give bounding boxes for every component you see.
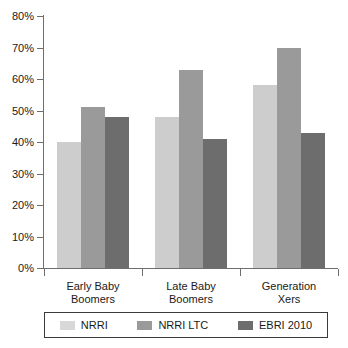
bar[interactable] (105, 117, 129, 268)
x-axis-end-tick (338, 269, 339, 276)
x-separator (240, 269, 241, 276)
legend-swatch-nrri (60, 321, 75, 330)
bar[interactable] (155, 117, 179, 268)
legend-item-2[interactable]: EBRI 2010 (238, 320, 312, 331)
y-axis-label-80: 80% (0, 11, 34, 22)
y-tick-10 (37, 237, 43, 238)
bar-group (57, 16, 129, 268)
y-axis-line (43, 15, 44, 269)
bar[interactable] (301, 133, 325, 268)
bar[interactable] (57, 142, 81, 268)
y-tick-20 (37, 205, 43, 206)
y-axis-label-10: 10% (0, 232, 34, 243)
legend-swatch-ebri-2010 (238, 321, 253, 330)
bar[interactable] (81, 107, 105, 268)
legend-item-0[interactable]: NRRI (60, 320, 108, 331)
y-axis-label-50: 50% (0, 106, 34, 117)
x-category-label-line: Xers (240, 293, 338, 306)
legend-swatch-nrri-ltc (137, 321, 152, 330)
y-tick-80 (37, 16, 43, 17)
x-category-label: Early BabyBoomers (44, 280, 142, 306)
y-tick-60 (37, 79, 43, 80)
x-category-label-line: Generation (240, 280, 338, 293)
legend-label-nrri-ltc: NRRI LTC (158, 320, 208, 331)
y-axis-label-70: 70% (0, 43, 34, 54)
y-tick-0 (37, 268, 43, 269)
x-category-label-line: Early Baby (44, 280, 142, 293)
x-axis-line (43, 268, 338, 269)
y-tick-40 (37, 142, 43, 143)
y-axis-label-20: 20% (0, 200, 34, 211)
y-tick-70 (37, 48, 43, 49)
x-category-label: GenerationXers (240, 280, 338, 306)
chart-legend: NRRI NRRI LTC EBRI 2010 (44, 312, 328, 338)
bar[interactable] (203, 139, 227, 268)
legend-item-1[interactable]: NRRI LTC (137, 320, 208, 331)
x-category-label-line: Boomers (44, 293, 142, 306)
y-axis-label-60: 60% (0, 74, 34, 85)
x-category-label-line: Boomers (142, 293, 240, 306)
legend-label-ebri-2010: EBRI 2010 (259, 320, 312, 331)
bar-group (253, 16, 325, 268)
x-category-label-line: Late Baby (142, 280, 240, 293)
y-axis-label-0: 0% (0, 263, 34, 274)
bar[interactable] (179, 70, 203, 268)
x-axis-start-tick (44, 269, 45, 276)
y-axis-label-40: 40% (0, 137, 34, 148)
x-separator (142, 269, 143, 276)
y-tick-30 (37, 174, 43, 175)
y-axis-label-30: 30% (0, 169, 34, 180)
bar-group (155, 16, 227, 268)
legend-label-nrri: NRRI (81, 320, 108, 331)
y-tick-50 (37, 111, 43, 112)
bar-chart: 0%10%20%30%40%50%60%70%80% Early BabyBoo… (0, 0, 348, 348)
bar[interactable] (253, 85, 277, 268)
bar[interactable] (277, 48, 301, 269)
x-category-label: Late BabyBoomers (142, 280, 240, 306)
